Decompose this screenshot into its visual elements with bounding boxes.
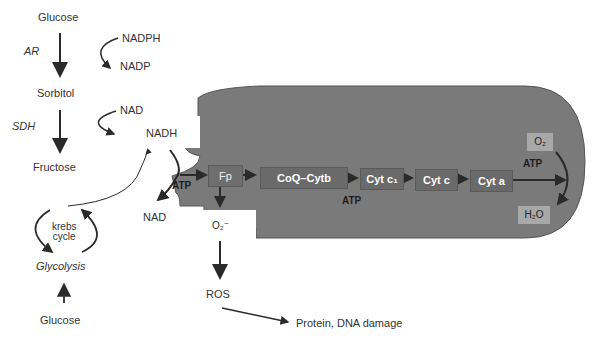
chain-box-coq-cytb: CoQ–Cytb (260, 167, 348, 189)
label-enzyme-sdh: SDH (12, 120, 35, 132)
chain-box-cyt-c: Cyt c (415, 169, 458, 191)
label-krebs-cycle: krebs cycle (52, 222, 76, 242)
chain-box-cyt-c1: Cyt c₁ (360, 168, 404, 190)
label-atp-right: ATP (523, 158, 542, 169)
label-ros: ROS (206, 288, 230, 300)
label-glycolysis: Glycolysis (36, 260, 86, 272)
label-nad-top: NAD (120, 104, 143, 116)
label-enzyme-ar: AR (24, 45, 39, 57)
arrow-nad-nadh (98, 111, 116, 134)
label-superoxide: O₂⁻ (212, 220, 229, 231)
arrow-nadph-nadp (101, 38, 118, 68)
chain-box-fp: Fp (208, 165, 243, 187)
arrow-ros-damage (222, 308, 288, 322)
label-glucose-top: Glucose (38, 11, 78, 23)
arrow-krebs-left (35, 210, 52, 252)
label-nadph: NADPH (122, 32, 161, 44)
box-h2o: H₂O (518, 206, 550, 224)
label-atp-middle: ATP (342, 195, 361, 206)
label-glucose-bottom: Glucose (40, 314, 80, 326)
label-fructose: Fructose (33, 161, 76, 173)
label-sorbitol: Sorbitol (37, 87, 74, 99)
label-nadp: NADP (120, 60, 151, 72)
chain-box-cyt-a: Cyt a (470, 170, 513, 192)
box-o2: O₂ (527, 133, 553, 151)
label-nadh: NADH (146, 127, 177, 139)
label-damage: Protein, DNA damage (296, 317, 402, 329)
label-atp-left: ATP (172, 180, 191, 191)
arrow-krebs-right (82, 210, 97, 252)
arrow-krebs-nadh (68, 154, 146, 206)
label-nad-bottom: NAD (143, 211, 166, 223)
